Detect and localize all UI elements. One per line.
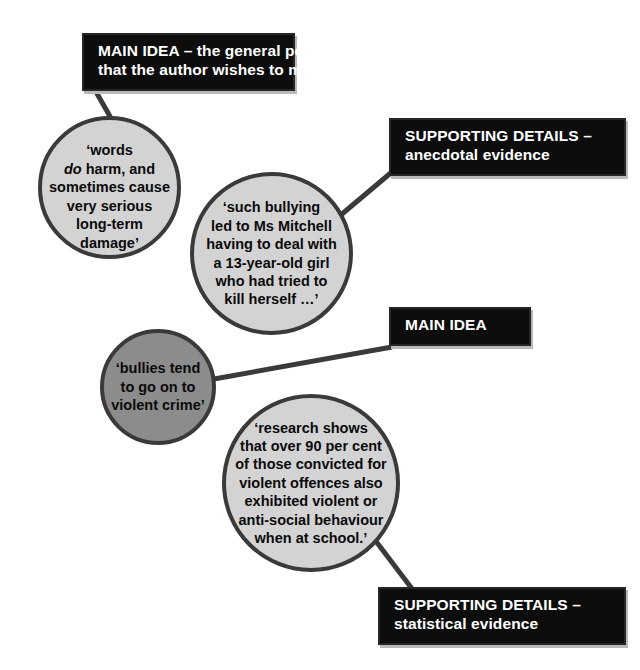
label-box-main-idea-1: MAIN IDEA – the general point that the a… (82, 33, 295, 91)
connector-research-to-supporting-2 (375, 540, 416, 594)
circle-bullies: ‘bullies tend to go on to violent crime’ (100, 329, 216, 445)
label-main-idea-2-line1: MAIN IDEA (405, 316, 517, 335)
label-supporting-2-line2: statistical evidence (394, 615, 612, 634)
circle-anecdote: ‘such bullying led to Ms Mitchell having… (190, 172, 353, 335)
circle-research-text: ‘research shows that over 90 per cent of… (229, 419, 392, 548)
label-main-idea-1-line2: that the author wishes to make (98, 61, 281, 80)
circle-anecdote-text: ‘such bullying led to Ms Mitchell having… (197, 198, 346, 308)
label-main-idea-1-line1: MAIN IDEA – the general point (98, 42, 281, 61)
label-supporting-1-line1: SUPPORTING DETAILS – (405, 127, 612, 146)
circle-bullies-text: ‘bullies tend to go on to violent crime’ (106, 359, 210, 414)
circle-words: ‘words do harm, and sometimes cause very… (38, 116, 181, 259)
label-supporting-2-line1: SUPPORTING DETAILS – (394, 596, 612, 615)
circle-words-text-pre: ‘words (86, 142, 133, 158)
circle-research: ‘research shows that over 90 per cent of… (222, 394, 400, 572)
label-supporting-1-line2: anecdotal evidence (405, 146, 612, 165)
label-box-supporting-details-1: SUPPORTING DETAILS – anecdotal evidence (389, 118, 626, 176)
circle-words-emphasis: do (64, 161, 82, 177)
diagram-canvas: ‘words do harm, and sometimes cause very… (0, 0, 640, 670)
circle-words-text: ‘words do harm, and sometimes cause very… (45, 123, 175, 252)
label-box-supporting-details-2: SUPPORTING DETAILS – statistical evidenc… (378, 587, 626, 645)
label-box-main-idea-2: MAIN IDEA (389, 307, 531, 346)
connector-main-idea-2-to-bullies (214, 347, 392, 379)
